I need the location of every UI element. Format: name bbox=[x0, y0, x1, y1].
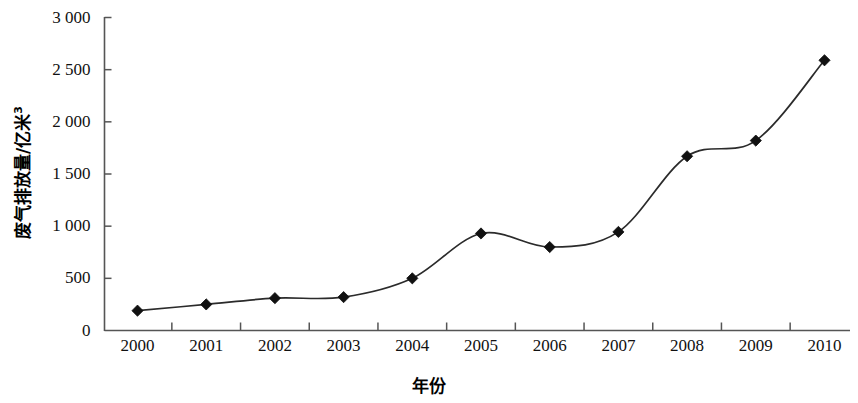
x-axis-ticks bbox=[172, 323, 790, 331]
axis-lines bbox=[105, 17, 851, 331]
data-point-marker bbox=[544, 241, 555, 252]
data-point-marker bbox=[407, 273, 418, 284]
x-axis-title: 年份 bbox=[0, 372, 858, 397]
data-point-marker bbox=[269, 293, 280, 304]
data-point-marker bbox=[338, 292, 349, 303]
data-point-markers bbox=[132, 55, 830, 317]
data-point-marker bbox=[201, 299, 212, 310]
plot-area bbox=[0, 0, 858, 403]
y-axis-ticks bbox=[105, 18, 112, 279]
emissions-line-chart: 废气排放量/亿米3 05001 0001 5002 0002 5003 000 … bbox=[0, 0, 858, 403]
data-point-marker bbox=[132, 305, 143, 316]
data-series-line bbox=[138, 60, 825, 310]
data-point-marker bbox=[475, 228, 486, 239]
